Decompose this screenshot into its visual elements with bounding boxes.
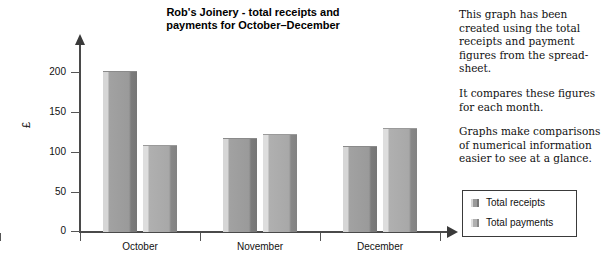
bar-december-total-receipts[interactable] bbox=[343, 146, 377, 232]
x-category-december: December bbox=[320, 241, 440, 252]
legend-label-total-receipts: Total receipts bbox=[486, 197, 545, 208]
side-note-1: This graph has been created using the to… bbox=[459, 8, 611, 76]
plot-area: £ 200 150 100 50 0 October November Dece… bbox=[0, 0, 460, 272]
x-tick-end bbox=[440, 233, 441, 241]
bar-december-total-payments[interactable] bbox=[383, 128, 417, 232]
bar-october-total-payments[interactable] bbox=[143, 145, 177, 232]
legend-swatch-payments-icon bbox=[471, 219, 479, 227]
side-note-3: Graphs make comparisons of numerical inf… bbox=[459, 125, 611, 166]
x-category-november: November bbox=[200, 241, 320, 252]
legend-label-total-payments: Total payments bbox=[486, 217, 553, 228]
chart-legend: Total receipts Total payments bbox=[462, 190, 577, 237]
legend-item-total-payments[interactable]: Total payments bbox=[471, 217, 576, 228]
x-category-october: October bbox=[80, 241, 200, 252]
x-tick-2b bbox=[320, 233, 321, 241]
bar-november-total-receipts[interactable] bbox=[223, 138, 257, 232]
bar-october-total-receipts[interactable] bbox=[103, 71, 137, 232]
legend-swatch-receipts-icon bbox=[471, 199, 479, 207]
legend-item-total-receipts[interactable]: Total receipts bbox=[471, 197, 576, 208]
bars-layer bbox=[0, 0, 460, 232]
side-notes: This graph has been created using the to… bbox=[459, 8, 611, 177]
chart-page: Rob's Joinery - total receipts and payme… bbox=[0, 0, 616, 272]
bar-november-total-payments[interactable] bbox=[263, 134, 297, 232]
x-tick-start bbox=[80, 233, 81, 241]
x-tick-2 bbox=[0, 233, 1, 241]
side-note-2: It compares these figures for each month… bbox=[459, 87, 611, 114]
x-tick-1 bbox=[200, 233, 201, 241]
